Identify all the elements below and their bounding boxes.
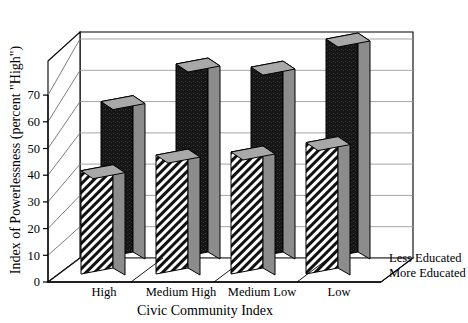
bar-more-educated-high — [81, 165, 125, 275]
x-tick-label-high: High — [92, 285, 118, 299]
y-tick-label-50: 50 — [28, 142, 41, 156]
y-tick-label-0: 0 — [34, 275, 40, 289]
x-axis-title: Civic Community Index — [137, 303, 273, 318]
y-axis-title: Index of Powerlessness (percent "High") — [8, 45, 24, 274]
y-tick-label-60: 60 — [28, 115, 41, 129]
x-tick-label-low: Low — [328, 285, 351, 299]
y-tick-label-10: 10 — [28, 249, 41, 263]
bar-more-educated-medium-low — [231, 146, 275, 275]
legend: Less Educated More Educated — [389, 251, 466, 280]
y-tick-label-40: 40 — [28, 168, 41, 182]
legend-label-less-educated: Less Educated — [389, 251, 462, 265]
bar-more-educated-low — [306, 137, 350, 275]
x-tick-label-medium-low: Medium Low — [228, 285, 296, 299]
legend-label-more-educated: More Educated — [389, 266, 466, 280]
y-tick-label-30: 30 — [28, 195, 41, 209]
bar-chart-3d: 0 10 20 30 40 50 60 70 — [0, 0, 468, 323]
chart-figure: 0 10 20 30 40 50 60 70 — [0, 0, 468, 323]
y-tick-label-70: 70 — [28, 88, 41, 102]
y-tick-label-20: 20 — [28, 222, 41, 236]
x-tick-label-medium-high: Medium High — [146, 285, 217, 299]
bar-more-educated-medium-high — [156, 149, 200, 275]
